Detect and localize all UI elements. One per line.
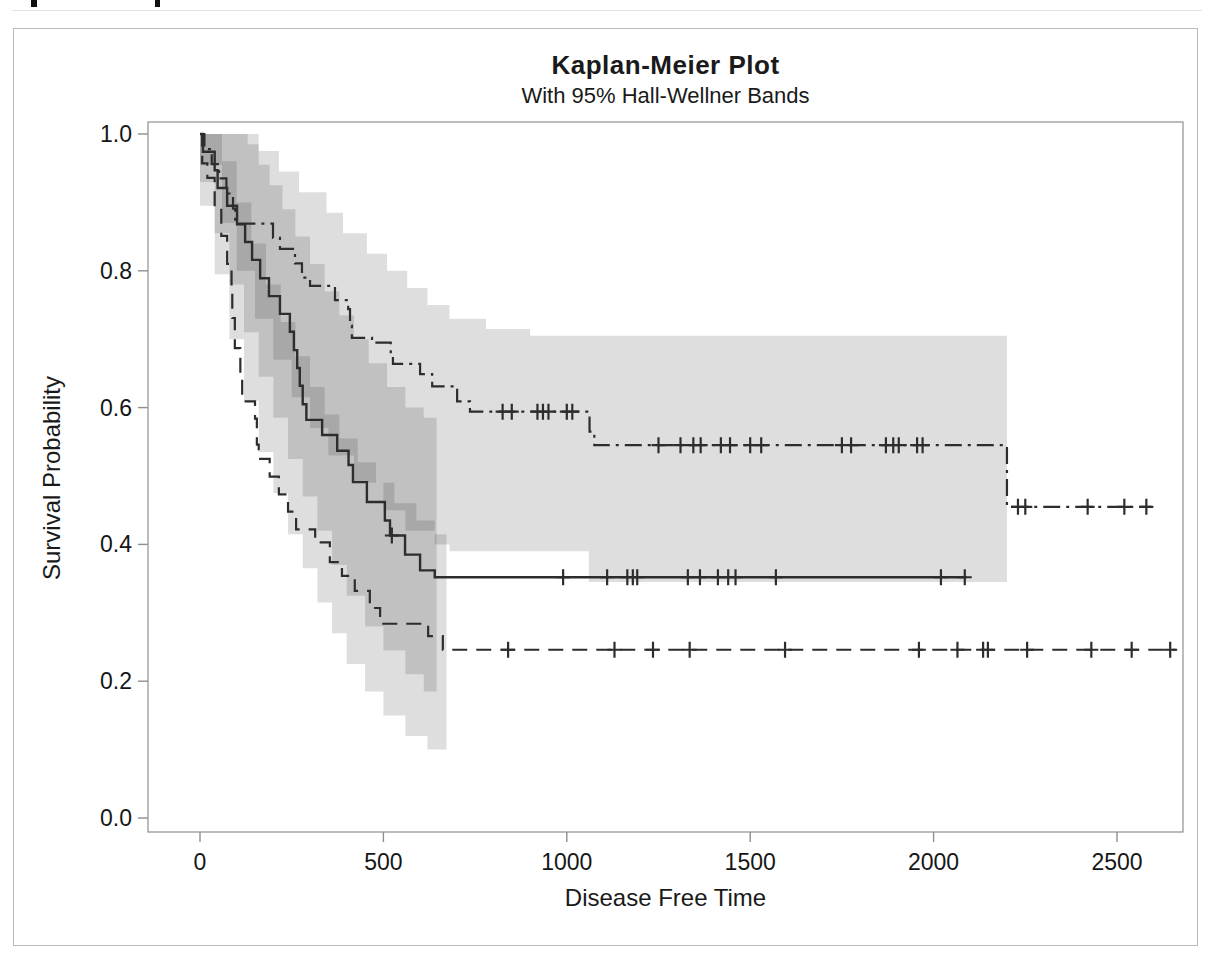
x-tick-label: 500 (364, 849, 402, 875)
x-tick-label: 1500 (725, 849, 776, 875)
x-tick-label: 1000 (541, 849, 592, 875)
x-tick-label: 0 (194, 849, 207, 875)
y-tick-label: 0.0 (100, 805, 132, 831)
y-tick-label: 0.6 (100, 395, 132, 421)
y-tick-label: 0.2 (100, 668, 132, 694)
x-tick-label: 2500 (1091, 849, 1142, 875)
y-tick-label: 1.0 (100, 121, 132, 147)
km-plot-canvas: 0.00.20.40.60.81.005001000150020002500 (0, 0, 1215, 963)
y-tick-label: 0.8 (100, 258, 132, 284)
page: Kaplan-Meier Plot With 95% Hall-Wellner … (0, 0, 1215, 963)
x-tick-label: 2000 (908, 849, 959, 875)
y-tick-label: 0.4 (100, 531, 132, 557)
